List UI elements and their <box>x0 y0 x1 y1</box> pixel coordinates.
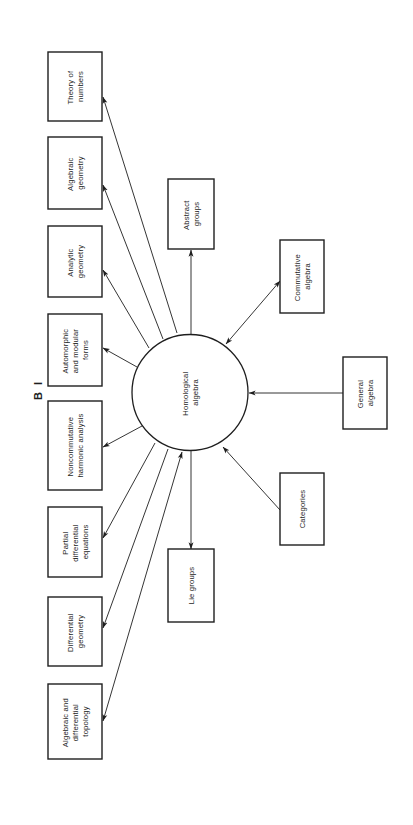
node-partial-differential-equations: Partial differential equations <box>48 507 102 577</box>
node-automorphic-modular-forms: Automorphic and modular forms <box>48 314 102 386</box>
node-label: Algebraic geometry <box>66 155 85 191</box>
node-label: General algebra <box>356 378 375 409</box>
node-label: Differential geometry <box>66 611 85 652</box>
node-label: Analytic geometry <box>66 245 85 278</box>
edge-to-theory-of-numbers <box>103 97 177 333</box>
edge-to-noncommutative-harmonic-analysis <box>103 426 142 447</box>
edge-commutative-algebra-bidirectional <box>226 281 280 344</box>
node-label: Categories <box>298 490 307 529</box>
edge-to-partial-differential-equations <box>103 443 155 538</box>
edge-from-categories <box>223 447 280 510</box>
figure-label-text: B I <box>32 380 44 400</box>
edge-to-algebraic-geometry <box>103 185 163 339</box>
node-label: Abstract groups <box>182 198 201 230</box>
node-general-algebra: General algebra <box>343 357 387 429</box>
node-noncommutative-harmonic-analysis: Noncommutative harmonic analysis <box>48 401 102 490</box>
node-label: Lie groups <box>187 567 196 604</box>
node-abstract-groups: Abstract groups <box>168 179 214 249</box>
edge-to-automorphic-forms <box>103 348 137 367</box>
node-differential-geometry: Differential geometry <box>48 597 102 666</box>
hub-homological-algebra: Homological algebra <box>132 335 248 451</box>
node-algebraic-differential-topology: Algebraic and differential topology <box>48 684 102 759</box>
node-algebraic-geometry: Algebraic geometry <box>48 137 102 209</box>
node-theory-of-numbers: Theory of numbers <box>48 52 102 121</box>
node-categories: Categories <box>280 473 324 545</box>
edge-to-analytic-geometry <box>103 270 149 348</box>
homological-algebra-diagram: B I Homological algebra Theory of <box>0 0 413 825</box>
node-analytic-geometry: Analytic geometry <box>48 226 102 297</box>
edge-to-differential-geometry <box>103 449 168 628</box>
node-lie-groups: Lie groups <box>168 549 214 622</box>
node-label: Theory of numbers <box>66 68 85 104</box>
node-commutative-algebra: Commutative algebra <box>280 240 324 313</box>
node-label: Noncommutative harmonic analysis <box>66 413 85 477</box>
figure-label: B I <box>32 380 44 400</box>
